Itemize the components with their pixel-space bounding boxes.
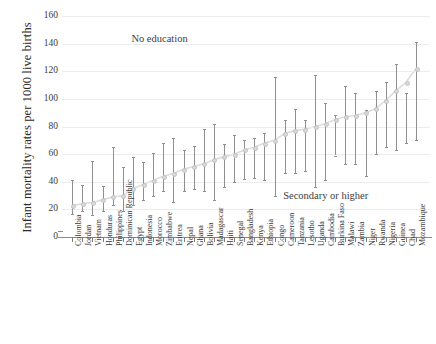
error-bar xyxy=(355,93,356,163)
error-bar-cap xyxy=(183,191,186,192)
x-axis-tick-label: Nigeria xyxy=(389,222,397,246)
y-axis-tick-label: 20 xyxy=(49,205,59,215)
x-axis-tick xyxy=(72,237,73,242)
y-axis-tick-label: 160 xyxy=(44,11,58,21)
error-bar-cap xyxy=(102,211,105,212)
error-bar-cap xyxy=(243,179,246,180)
error-bar-cap xyxy=(274,196,277,197)
error-bar xyxy=(416,42,417,140)
x-axis-tick xyxy=(285,237,286,242)
error-bar xyxy=(153,153,154,196)
error-bar xyxy=(264,133,265,180)
error-bar-cap xyxy=(344,164,347,165)
error-bar-cap xyxy=(193,146,196,147)
x-axis-tick xyxy=(244,237,245,242)
error-bar-cap xyxy=(334,115,337,116)
x-axis-tick xyxy=(103,237,104,242)
error-bar xyxy=(366,110,367,176)
data-point xyxy=(263,142,268,147)
error-bar-cap xyxy=(405,143,408,144)
error-bar-cap xyxy=(233,135,236,136)
error-bar-cap xyxy=(91,161,94,162)
error-bar xyxy=(254,138,255,178)
error-bar-cap xyxy=(304,171,307,172)
data-point xyxy=(233,153,238,158)
error-bar-cap xyxy=(203,129,206,130)
error-bar-cap xyxy=(395,64,398,65)
error-bar-cap xyxy=(294,109,297,110)
data-point xyxy=(172,172,177,177)
x-axis-tick-label: Senegal xyxy=(237,221,245,246)
x-axis-tick xyxy=(184,237,185,242)
x-axis-tick xyxy=(295,237,296,242)
error-bar-cap xyxy=(344,86,347,87)
y-axis-zero-tick xyxy=(58,231,63,232)
x-axis-tick xyxy=(133,237,134,242)
error-bar xyxy=(244,140,245,179)
error-bar xyxy=(315,75,316,187)
x-axis-tick-label: Rwanda xyxy=(379,220,387,246)
error-bar-cap xyxy=(243,140,246,141)
error-bar-cap xyxy=(81,211,84,212)
error-bar-cap xyxy=(122,167,125,168)
error-bar-cap xyxy=(263,180,266,181)
x-axis-tick xyxy=(123,237,124,242)
y-axis-tick-label: 140 xyxy=(44,39,58,49)
error-bar-cap xyxy=(142,200,145,201)
error-bar-cap xyxy=(213,200,216,201)
chart-annotation: Secondary or higher xyxy=(283,190,368,201)
x-axis-tick xyxy=(194,237,195,242)
x-axis-tick xyxy=(204,237,205,242)
x-axis-tick-label: Kenya xyxy=(257,225,265,246)
error-bar-cap xyxy=(172,202,175,203)
y-axis-tick-label: 100 xyxy=(44,94,58,104)
x-axis-tick-label: Mozambique xyxy=(419,204,427,246)
y-axis-tick-label: 40 xyxy=(49,177,59,187)
error-bar-cap xyxy=(142,162,145,163)
error-bar-cap xyxy=(284,173,287,174)
x-axis-tick xyxy=(113,237,114,242)
error-bar-cap xyxy=(375,154,378,155)
error-bar xyxy=(204,129,205,191)
data-point xyxy=(415,67,420,72)
error-bar-cap xyxy=(81,185,84,186)
gridline xyxy=(62,182,430,183)
x-axis-tick-label: Zambia xyxy=(358,222,366,246)
error-bar-cap xyxy=(71,180,74,181)
data-point xyxy=(91,201,96,206)
x-axis-tick xyxy=(355,237,356,242)
x-axis-tick xyxy=(143,237,144,242)
error-bar xyxy=(295,109,296,174)
error-bar xyxy=(396,64,397,150)
error-bar xyxy=(92,161,93,215)
x-axis-tick-label: Congo xyxy=(278,225,286,246)
error-bar-cap xyxy=(102,186,105,187)
error-bar-cap xyxy=(304,120,307,121)
data-point xyxy=(162,175,167,180)
error-bar xyxy=(406,93,407,143)
x-axis-tick xyxy=(153,237,154,242)
x-axis-tick xyxy=(214,237,215,242)
error-bar-cap xyxy=(183,150,186,151)
x-axis-tick xyxy=(416,237,417,242)
error-bar-cap xyxy=(415,42,418,43)
gridline xyxy=(62,44,430,45)
data-point xyxy=(405,81,410,86)
x-axis-tick xyxy=(234,237,235,242)
data-point xyxy=(253,146,258,151)
error-bar-cap xyxy=(314,187,317,188)
data-point xyxy=(334,118,339,123)
data-point xyxy=(142,183,147,188)
y-axis-tick-label: 80 xyxy=(49,122,59,132)
error-bar xyxy=(163,143,164,191)
error-bar-cap xyxy=(284,120,287,121)
error-bar-cap xyxy=(253,178,256,179)
error-bar xyxy=(325,103,326,180)
x-axis-tick xyxy=(396,237,397,242)
x-axis-tick-label: Uganda xyxy=(318,221,326,246)
error-bar xyxy=(285,120,286,174)
x-axis-tick xyxy=(224,237,225,242)
error-bar-cap xyxy=(193,189,196,190)
data-point xyxy=(273,139,278,144)
error-bar-cap xyxy=(334,156,337,157)
